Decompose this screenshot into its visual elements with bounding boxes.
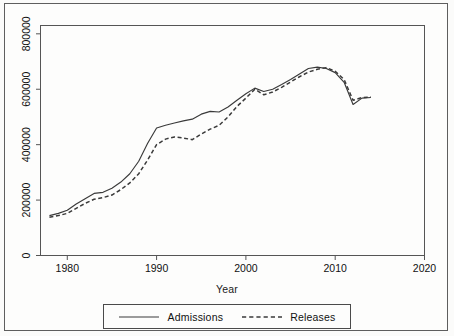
legend-label-admissions: Admissions bbox=[167, 311, 223, 323]
y-axis-tick-label: 800000 bbox=[20, 16, 32, 51]
x-axis-title: Year bbox=[0, 283, 454, 295]
chart-legend: Admissions Releases bbox=[103, 304, 351, 329]
figure-container: 0200000400000600000800000198019902000201… bbox=[0, 0, 454, 336]
legend-label-releases: Releases bbox=[290, 311, 335, 323]
y-axis-tick-label: 600000 bbox=[20, 72, 32, 107]
x-axis-tick-label: 2010 bbox=[324, 262, 348, 274]
x-axis-tick-label: 1990 bbox=[145, 262, 169, 274]
series-line-releases bbox=[49, 68, 370, 218]
legend-entry-releases: Releases bbox=[241, 311, 335, 323]
legend-entry-admissions: Admissions bbox=[118, 311, 223, 323]
dashed-line-swatch bbox=[241, 312, 283, 322]
plot-box bbox=[41, 26, 425, 256]
x-axis-tick-label: 2020 bbox=[413, 262, 437, 274]
y-axis-tick-label: 0 bbox=[20, 252, 32, 258]
series-line-admissions bbox=[49, 67, 370, 216]
y-axis-tick-label: 400000 bbox=[20, 127, 32, 162]
solid-line-swatch bbox=[118, 312, 160, 322]
y-axis-tick-label: 200000 bbox=[20, 182, 32, 217]
x-axis-tick-label: 1980 bbox=[56, 262, 80, 274]
x-axis-tick-label: 2000 bbox=[234, 262, 258, 274]
